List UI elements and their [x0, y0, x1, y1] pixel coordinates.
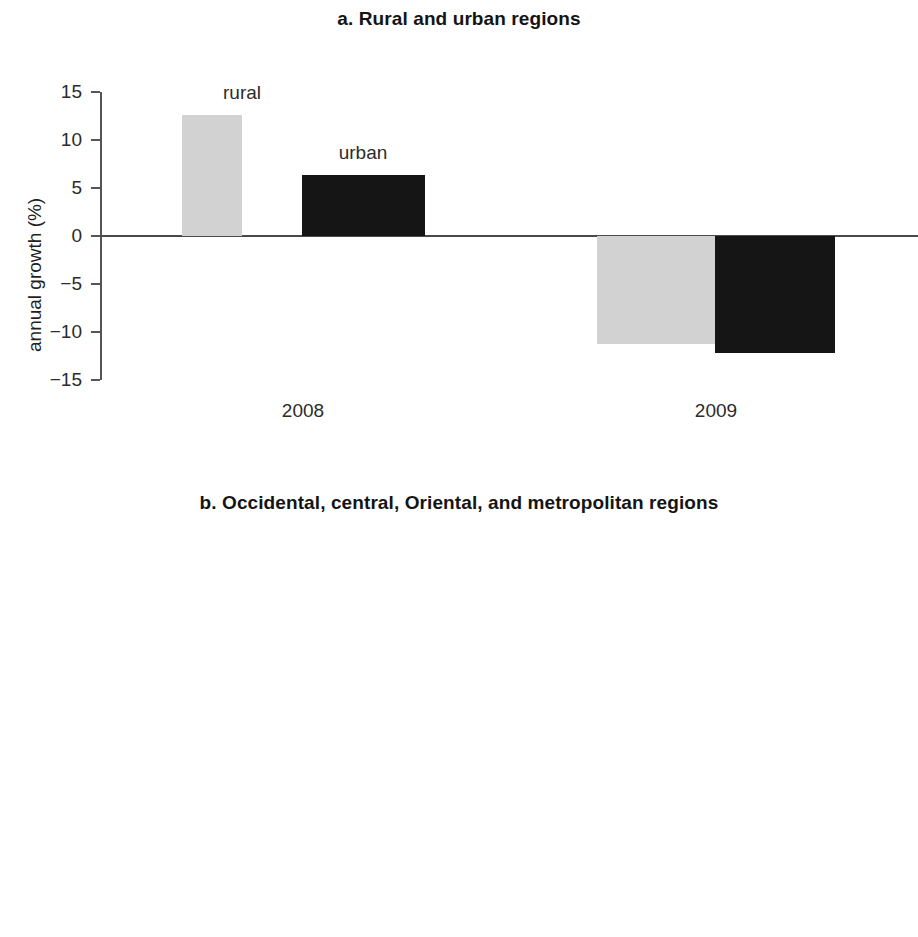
- y-tick-label-a-6: −15: [26, 369, 82, 391]
- bar-a-2008-urban: [302, 175, 425, 236]
- bar-a-2009-rural: [597, 236, 715, 344]
- y-tick-a-1: [91, 139, 100, 141]
- bar-a-2009-urban: [715, 236, 835, 353]
- bar-a-2008-rural: [182, 115, 242, 236]
- x-group-label-a-2008: 2008: [243, 400, 363, 422]
- panel-b-title: b. Occidental, central, Oriental, and me…: [0, 492, 918, 514]
- y-tick-a-4: [91, 283, 100, 285]
- y-tick-a-5: [91, 331, 100, 333]
- x-group-label-a-2009: 2009: [656, 400, 776, 422]
- y-tick-label-a-0: 15: [26, 81, 82, 103]
- series-label-a-urban: urban: [293, 142, 433, 163]
- series-label-a-rural: rural: [172, 82, 312, 103]
- y-tick-label-a-2: 5: [26, 177, 82, 199]
- panel-regions: b. Occidental, central, Oriental, and me…: [0, 470, 918, 937]
- y-tick-a-2: [91, 187, 100, 189]
- y-tick-label-a-1: 10: [26, 129, 82, 151]
- panel-a-title: a. Rural and urban regions: [0, 8, 918, 30]
- y-tick-a-0: [91, 91, 100, 93]
- y-tick-a-3: [91, 235, 100, 237]
- y-axis-title-a: annual growth (%): [24, 198, 46, 352]
- panel-rural-urban: a. Rural and urban regions 151050−5−10−1…: [0, 0, 918, 470]
- y-tick-a-6: [91, 379, 100, 381]
